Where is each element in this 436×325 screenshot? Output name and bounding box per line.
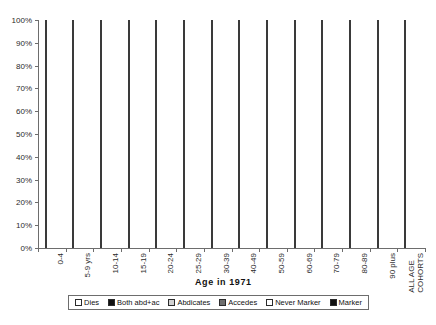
y-axis-tick-mark — [35, 202, 39, 203]
x-axis-label: 80-89 — [360, 253, 369, 273]
legend-swatch-icon — [266, 299, 273, 306]
y-axis-tick-label: 50% — [0, 130, 32, 139]
y-axis-tick-label: 90% — [0, 38, 32, 47]
x-axis-tick-mark — [38, 248, 39, 252]
bar-50-59[interactable] — [266, 20, 268, 248]
y-axis-tick-label: 30% — [0, 175, 32, 184]
x-axis-tick-mark — [232, 248, 233, 252]
bar-60-69[interactable] — [294, 20, 296, 248]
legend-label: Accedes — [228, 298, 257, 307]
plot-area — [38, 20, 425, 248]
y-axis-tick-label: 70% — [0, 84, 32, 93]
y-axis-tick-mark — [35, 225, 39, 226]
y-axis-tick-label: 60% — [0, 107, 32, 116]
y-axis-tick-mark — [35, 88, 39, 89]
x-axis-label: 90 plus — [388, 253, 397, 279]
x-axis-tick-mark — [176, 248, 177, 252]
x-axis-tick-mark — [259, 248, 260, 252]
y-axis-tick-mark — [35, 157, 39, 158]
x-axis-tick-mark — [370, 248, 371, 252]
x-axis-label: 30-39 — [222, 253, 231, 273]
bar-90-plus[interactable] — [377, 20, 379, 248]
legend-label: Dies — [84, 298, 99, 307]
x-axis-label: 5-9 yrs — [83, 253, 92, 277]
y-axis-tick-label: 20% — [0, 198, 32, 207]
chart-root: 0%10%20%30%40%50%60%70%80%90%100% 0-45-9… — [0, 0, 436, 325]
bar-all-age-cohorts[interactable] — [404, 20, 406, 248]
bar-80-89[interactable] — [349, 20, 351, 248]
legend-label: Marker — [339, 298, 362, 307]
x-axis-label: 50-59 — [277, 253, 286, 273]
x-axis-tick-mark — [121, 248, 122, 252]
legend-item-abdicates[interactable]: Abdicates — [168, 298, 210, 307]
x-axis-tick-mark — [149, 248, 150, 252]
bar-70-79[interactable] — [321, 20, 323, 248]
y-axis-tick-label: 80% — [0, 61, 32, 70]
x-axis-label: 0-4 — [56, 253, 65, 265]
bar-15-19[interactable] — [128, 20, 130, 248]
y-axis-tick-mark — [35, 43, 39, 44]
chart-legend: DiesBoth abd+acAbdicatesAccedesNever Mar… — [68, 295, 369, 310]
x-axis-label: 60-69 — [305, 253, 314, 273]
legend-label: Never Marker — [275, 298, 320, 307]
legend-item-nevermarker[interactable]: Never Marker — [266, 298, 320, 307]
bar-5-9-yrs[interactable] — [72, 20, 74, 248]
y-axis-tick-label: 0% — [0, 244, 32, 253]
y-axis-tick-mark — [35, 20, 39, 21]
y-axis-tick-label: 40% — [0, 152, 32, 161]
x-axis-label: ALL AGE COHORTS — [407, 253, 425, 293]
x-axis-label: 40-49 — [249, 253, 258, 273]
x-axis-tick-mark — [397, 248, 398, 252]
x-axis-label: 70-79 — [332, 253, 341, 273]
x-axis-tick-mark — [287, 248, 288, 252]
y-axis-tick-label: 10% — [0, 221, 32, 230]
x-axis-tick-mark — [425, 248, 426, 252]
x-axis-tick-mark — [204, 248, 205, 252]
y-axis-tick-mark — [35, 111, 39, 112]
x-axis-tick-mark — [93, 248, 94, 252]
x-axis-label: 10-14 — [111, 253, 120, 273]
x-axis-tick-mark — [314, 248, 315, 252]
legend-swatch-icon — [219, 299, 226, 306]
legend-item-both[interactable]: Both abd+ac — [108, 298, 159, 307]
bar-25-29[interactable] — [183, 20, 185, 248]
y-axis-tick-mark — [35, 134, 39, 135]
legend-item-marker[interactable]: Marker — [330, 298, 362, 307]
legend-item-dies[interactable]: Dies — [75, 298, 99, 307]
x-axis-title: Age in 1971 — [195, 277, 252, 287]
x-axis-tick-mark — [342, 248, 343, 252]
x-axis-label: 15-19 — [139, 253, 148, 273]
bar-0-4[interactable] — [45, 20, 47, 248]
legend-item-accedes[interactable]: Accedes — [219, 298, 257, 307]
x-axis-label: 25-29 — [194, 253, 203, 273]
x-axis-label: 20-24 — [166, 253, 175, 273]
x-axis-tick-mark — [66, 248, 67, 252]
legend-swatch-icon — [108, 299, 115, 306]
legend-label: Both abd+ac — [117, 298, 159, 307]
y-axis-tick-label: 100% — [0, 16, 32, 25]
legend-label: Abdicates — [177, 298, 210, 307]
bar-30-39[interactable] — [211, 20, 213, 248]
legend-swatch-icon — [75, 299, 82, 306]
y-axis-tick-mark — [35, 180, 39, 181]
legend-swatch-icon — [168, 299, 175, 306]
bar-20-24[interactable] — [155, 20, 157, 248]
bar-40-49[interactable] — [238, 20, 240, 248]
bar-10-14[interactable] — [100, 20, 102, 248]
y-axis-tick-mark — [35, 66, 39, 67]
legend-swatch-icon — [330, 299, 337, 306]
